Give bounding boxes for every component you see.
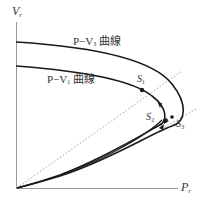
s2p-subscript: 2 [151, 117, 154, 123]
s1-subscript: 1 [142, 79, 145, 85]
point-s1-label: S1 [137, 74, 145, 85]
transition-path [62, 120, 162, 174]
point-s3p-label: S′3 [176, 118, 184, 130]
point-s2p-label: S′2 [146, 111, 154, 123]
s3p-subscript: 3 [181, 124, 184, 130]
point-s1-marker [140, 88, 144, 92]
y-axis-label: Vr [12, 5, 22, 19]
point-s2p-marker [164, 118, 168, 122]
pv1-label-prefix: P−V [47, 73, 67, 85]
dotted-load-line-1 [17, 71, 182, 188]
y-axis-subscript: r [19, 11, 22, 19]
pv3-curve [16, 42, 183, 188]
pv3-label-suffix: 曲線 [96, 35, 121, 47]
x-axis-label: Pr [181, 181, 191, 195]
point-s3p-marker [170, 115, 174, 119]
pv1-label-suffix: 曲線 [70, 73, 95, 85]
x-axis-subscript: r [188, 187, 191, 195]
pv-diagram-canvas [0, 0, 203, 204]
pv3-curve-label: P−V3 曲線 [73, 36, 121, 47]
pv1-curve-label: P−V1 曲線 [47, 74, 95, 85]
pv3-label-prefix: P−V [73, 35, 93, 47]
